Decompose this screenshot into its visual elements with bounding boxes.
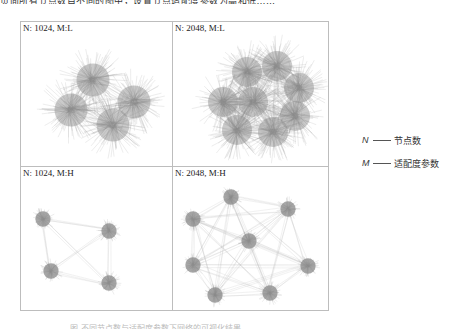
legend-symbol: N (362, 135, 372, 145)
network-visualization-grid: N: 1024, M:L N: 2048, M:L N: 1024, M:H N… (20, 21, 329, 311)
panel-n1024-mh: N: 1024, M:H (21, 167, 173, 310)
legend-dash (373, 140, 391, 141)
network-graph (173, 22, 328, 167)
panel-n2048-mh: N: 2048, M:H (173, 167, 328, 310)
top-text-fragment: 页面所有节点数目不同的图中，设置节点适配度参数为高和低…… (0, 0, 465, 4)
network-graph (21, 22, 173, 167)
panel-label: N: 1024, M:H (23, 168, 74, 178)
network-graph (21, 167, 173, 310)
network-graph (173, 167, 328, 310)
panel-label: N: 1024, M:L (23, 23, 73, 33)
legend-text: 节点数 (394, 134, 421, 147)
legend-item-m: M 适配度参数 (362, 156, 439, 170)
panel-label: N: 2048, M:H (175, 168, 226, 178)
legend: N 节点数 M 适配度参数 (362, 133, 439, 179)
legend-dash (373, 163, 391, 164)
legend-symbol: M (362, 158, 372, 168)
panel-n2048-ml: N: 2048, M:L (173, 22, 328, 167)
panel-label: N: 2048, M:L (175, 23, 225, 33)
panel-n1024-ml: N: 1024, M:L (21, 22, 173, 167)
caption-fragment: 图 不同节点数与适配度参数下网络的可视化结果 (70, 322, 370, 329)
legend-text: 适配度参数 (394, 157, 439, 170)
legend-item-n: N 节点数 (362, 133, 439, 147)
